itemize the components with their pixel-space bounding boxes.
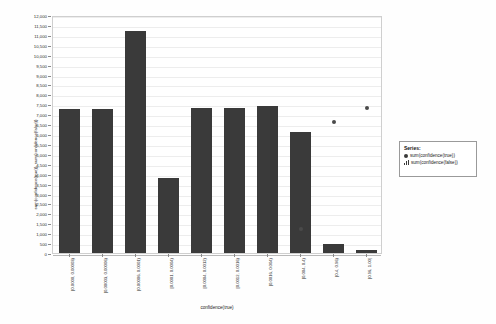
y-axis-tick-label: 7,500 [36,103,47,108]
y-axis-tick [48,125,51,126]
y-axis-tick-label: 1,500 [36,222,47,227]
dot-marker-icon [404,154,408,158]
y-axis-tick [48,224,51,225]
bar[interactable] [323,244,343,253]
y-axis-tick [48,145,51,146]
x-axis-tick [69,254,70,257]
y-axis-tick-label: 10,500 [34,43,47,48]
y-axis-tick-label: 500 [40,242,47,247]
y-axis-tick [48,195,51,196]
legend-item-label: sum(confidence(true)) [410,153,455,158]
y-axis-tick [48,105,51,106]
x-axis-tick [366,254,367,257]
y-axis-tick-label: 4,500 [36,162,47,167]
bar[interactable] [92,109,112,253]
legend-item-label: sum(confidence(false)) [411,160,458,165]
chart-canvas: sum(confidence(true)), sum(confidence(fa… [0,0,496,324]
y-axis-tick [48,214,51,215]
y-axis-tick [48,85,51,86]
y-axis-tick-label: 11,000 [34,33,47,38]
y-axis-tick [48,36,51,37]
y-axis-tick-label: 4,000 [36,172,47,177]
legend-title: Series: [404,145,472,151]
y-axis-tick [48,56,51,57]
x-axis-tick-label: [0.0001, 0.0004) [169,258,174,289]
y-axis-tick-labels: 05001,0001,5002,0002,5003,0003,5004,0004… [0,16,50,254]
y-axis-tick-label: 11,500 [34,23,47,28]
bar[interactable] [158,178,178,253]
data-point[interactable] [299,227,303,231]
y-axis-tick-label: 5,000 [36,152,47,157]
x-axis-tick-label: [0.00006, 0.0001) [136,258,141,291]
y-axis-tick [48,135,51,136]
y-axis-tick [48,165,51,166]
data-point[interactable] [365,106,369,110]
legend-item-sum-confidence-true[interactable]: sum(confidence(true)) [404,153,472,158]
y-axis-tick [48,115,51,116]
x-axis-tick-label: [0.96, 1.00] [367,258,372,279]
bar[interactable] [290,132,310,253]
x-axis-tick-label: [0.0000, 0.00003) [70,258,75,291]
y-axis-tick-label: 1,000 [36,232,47,237]
y-axis-tick-label: 2,000 [36,212,47,217]
x-axis-tick [300,254,301,257]
y-axis-tick-label: 8,500 [36,83,47,88]
y-axis-tick-label: 2,500 [36,202,47,207]
y-axis-tick-label: 6,500 [36,123,47,128]
y-axis-tick-label: 3,500 [36,182,47,187]
y-axis-tick [48,155,51,156]
x-axis-tick [135,254,136,257]
y-axis-tick-label: 10,000 [34,53,47,58]
y-axis-tick-label: 0 [45,252,47,257]
y-axis-tick-label: 7,000 [36,113,47,118]
y-axis-tick [48,185,51,186]
y-axis-tick-label: 9,500 [36,63,47,68]
bar[interactable] [257,106,277,253]
x-axis-tick-label: [0.4, 0.96) [334,258,339,277]
x-axis-tick-labels: [0.0000, 0.00003)[0.00003, 0.00006)[0.00… [52,258,382,304]
x-axis-title: confidence(true) [52,305,382,310]
legend-item-sum-confidence-false[interactable]: sum(confidence(false)) [404,160,472,165]
x-axis-tick-label: [0.00003, 0.00006) [103,258,108,293]
y-axis-tick [48,204,51,205]
y-axis-tick-label: 12,000 [34,14,47,19]
y-axis-tick [48,66,51,67]
bar[interactable] [356,250,376,253]
y-axis-tick [48,46,51,47]
x-axis-tick [333,254,334,257]
bar[interactable] [125,31,145,253]
y-axis-tick [48,76,51,77]
y-axis-tick [48,26,51,27]
x-axis-tick-label: [0.0004, 0.0012) [202,258,207,289]
bar[interactable] [191,108,211,253]
x-axis-tick [267,254,268,257]
x-axis-tick-label: [0.0012, 0.0016) [235,258,240,289]
y-axis-tick-label: 3,000 [36,192,47,197]
y-axis-tick [48,175,51,176]
data-point[interactable] [332,120,336,124]
x-axis-tick [102,254,103,257]
y-axis-tick-label: 6,000 [36,133,47,138]
legend-box: Series: sum(confidence(true)) sum(confid… [399,141,477,177]
y-axis-tick-label: 8,000 [36,93,47,98]
bar[interactable] [224,108,244,253]
y-axis-tick [48,234,51,235]
y-axis-tick [48,16,51,17]
y-axis-tick [48,244,51,245]
x-axis-tick-label: [0.004, 0.4) [301,258,306,279]
bar-chart-icon [404,160,409,165]
bars-layer [53,17,381,253]
y-axis-tick [48,95,51,96]
y-axis-tick-label: 9,000 [36,73,47,78]
y-axis-tick-label: 5,500 [36,142,47,147]
x-axis-tick-label: [0.0016, 0.004) [268,258,273,286]
plot-area [52,16,382,254]
y-axis-tick [48,254,51,255]
bar[interactable] [59,109,79,253]
